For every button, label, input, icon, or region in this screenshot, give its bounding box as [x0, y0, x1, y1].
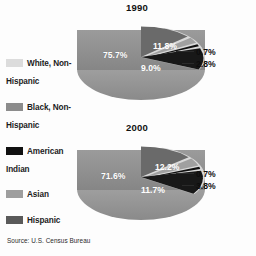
slice-label-black-1990: 9.0% — [141, 63, 161, 73]
legend-swatch-white — [6, 59, 23, 67]
legend-swatch-black — [6, 103, 23, 111]
leader-line-asian-2000 — [182, 185, 194, 186]
legend-label-asian: Asian — [27, 190, 49, 199]
leader-line-asian-1990 — [182, 63, 194, 64]
slice-label-black-2000: 11.7% — [141, 185, 165, 195]
legend-swatch-american-indian — [6, 147, 23, 155]
callout-american-indian-1990: 0.7% — [196, 47, 216, 57]
slice-label-white-1990: 75.7% — [103, 50, 127, 60]
legend-label-hispanic: Hispanic — [27, 216, 60, 225]
pie-chart-1990: 1990 — [72, 2, 256, 120]
leader-line-american-indian-1990 — [176, 51, 194, 52]
leader-line-american-indian-2000 — [176, 173, 194, 174]
pie-face-1990 — [77, 26, 205, 88]
legend-item-asian: Asian — [6, 183, 80, 201]
figure-root: White, Non-Hispanic Black, Non-Hispanic … — [0, 0, 256, 256]
pie-chart-2000: 2000 — [72, 122, 256, 242]
callout-american-indian-2000: 0.7% — [196, 169, 216, 179]
legend-item-white: White, Non-Hispanic — [6, 52, 80, 88]
slice-label-white-2000: 71.6% — [101, 171, 125, 181]
pie-face-2000 — [77, 146, 205, 208]
pie-graphic-1990: 75.7% 11.8% 9.0% — [77, 18, 207, 114]
legend-item-hispanic: Hispanic — [6, 209, 80, 227]
slice-label-hispanic-1990: 11.8% — [153, 41, 177, 51]
callout-asian-1990: 2.8% — [196, 59, 216, 69]
pie-graphic-2000: 71.6% 12.2% 11.7% — [77, 138, 207, 234]
legend-item-black: Black, Non-Hispanic — [6, 96, 80, 132]
chart-title-2000: 2000 — [72, 122, 202, 133]
legend-swatch-asian — [6, 190, 23, 198]
pie-slices-1990 — [77, 26, 205, 88]
legend-item-american-indian: American Indian — [6, 140, 80, 176]
source-note: Source: U.S. Census Bureau — [7, 237, 90, 244]
pie-slices-2000 — [77, 146, 205, 208]
legend-swatch-hispanic — [6, 216, 23, 224]
chart-title-1990: 1990 — [72, 2, 202, 13]
chart-legend: White, Non-Hispanic Black, Non-Hispanic … — [6, 52, 80, 235]
slice-label-hispanic-2000: 12.2% — [155, 162, 179, 172]
callout-asian-2000: 3.8% — [196, 181, 216, 191]
